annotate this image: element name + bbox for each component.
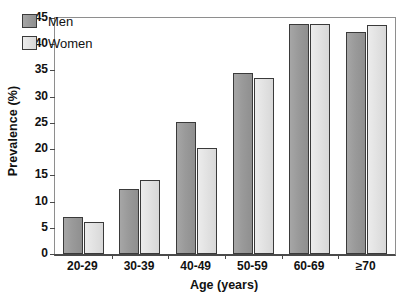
y-tick-mark: [50, 254, 55, 255]
y-tick-label: 25: [22, 116, 48, 128]
bar-group: [282, 18, 339, 254]
y-tick-mark: [50, 228, 55, 229]
legend-label-men: Men: [48, 15, 73, 28]
bar-women-20-29: [84, 222, 104, 255]
legend-swatch-women: [22, 36, 37, 50]
y-tick-label: 15: [22, 168, 48, 180]
x-tick-label: 30-39: [124, 259, 155, 273]
y-tick-label: 35: [22, 63, 48, 75]
legend-entry-women: Women: [22, 32, 162, 54]
bar-group: [338, 18, 395, 254]
prevalence-by-age-bar-chart: Prevalence (%) 051015202530354045 20-293…: [0, 0, 412, 302]
bar-men-50-59: [233, 73, 253, 254]
legend-swatch-men: [22, 14, 37, 28]
x-tick-label: 40-49: [180, 259, 211, 273]
y-tick-label: 30: [22, 90, 48, 102]
bar-women-30-39: [140, 180, 160, 254]
x-axis-title: Age (years): [54, 278, 394, 292]
y-tick-mark: [50, 123, 55, 124]
y-tick-mark: [50, 97, 55, 98]
bar-men-40-49: [176, 122, 196, 254]
bar-women-60-69: [310, 24, 330, 254]
x-axis-tick-labels: 20-2930-3940-4950-5960-69≥70: [54, 259, 394, 277]
y-axis-title-text: Prevalence (%): [6, 86, 20, 176]
x-tick-label: 60-69: [294, 259, 325, 273]
bar-group: [225, 18, 282, 254]
y-tick-mark: [50, 175, 55, 176]
bar-men-20-29: [63, 217, 83, 254]
y-tick-label: 0: [22, 247, 48, 259]
bar-men-≥70: [346, 32, 366, 254]
bar-women-50-59: [254, 78, 274, 254]
bar-men-30-39: [119, 189, 139, 254]
x-tick-label: 20-29: [67, 259, 98, 273]
y-tick-label: 10: [22, 195, 48, 207]
y-tick-mark: [50, 202, 55, 203]
x-tick-label: ≥70: [356, 259, 376, 273]
bar-women-40-49: [197, 148, 217, 254]
legend-label-women: Women: [48, 37, 93, 50]
chart-legend: MenWomen: [22, 10, 162, 54]
y-tick-mark: [50, 70, 55, 71]
y-tick-mark: [50, 149, 55, 150]
bar-men-60-69: [289, 24, 309, 254]
y-tick-label: 5: [22, 221, 48, 233]
x-tick-label: 50-59: [237, 259, 268, 273]
bar-group: [168, 18, 225, 254]
bar-women-≥70: [367, 25, 387, 254]
y-tick-label: 20: [22, 142, 48, 154]
legend-entry-men: Men: [22, 10, 162, 32]
